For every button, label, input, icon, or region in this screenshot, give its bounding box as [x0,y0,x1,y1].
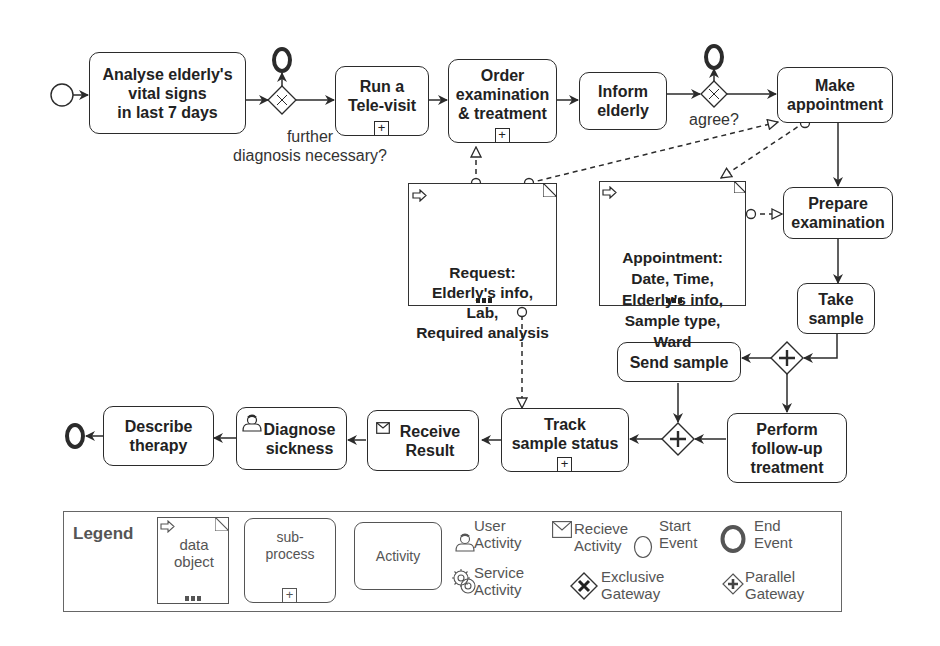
subprocess-order-examination[interactable]: Order examination & treatment+ [448,59,557,143]
activity-make-appointment[interactable]: Make appointment [777,67,893,123]
collection-marker-icon [185,596,201,601]
gateway-label-further-diagnosis: further diagnosis necessary? [215,127,405,165]
activity-label: Perform follow-up treatment [751,420,824,477]
activity-diagnose-sickness[interactable]: Diagnose sickness [236,407,347,470]
legend-start-event-label: Start Event [659,517,697,551]
activity-label: Diagnose sickness [263,420,335,458]
legend-end-event-label: End Event [754,517,792,551]
activity-label: Make appointment [787,76,883,114]
legend-data-object-label: data object [168,536,220,570]
legend-receive-activity-label: Recieve Activity [574,520,628,554]
parallel-gateway-icon [722,573,744,595]
start-event-icon [51,84,73,106]
activity-analyse-vital-signs[interactable]: Analyse elderly's vital signs in last 7 … [89,52,246,134]
activity-label: Describe therapy [125,417,193,455]
collection-marker-icon [666,298,682,303]
input-arrow-icon [602,186,617,199]
activity-label: Analyse elderly's vital signs in last 7 … [102,65,232,122]
user-activity-icon [454,532,476,552]
legend-exclusive-gateway-label: Exclusive Gateway [601,568,664,602]
folded-corner-icon [215,517,229,531]
activity-prepare-examination[interactable]: Prepare examination [783,187,893,239]
activity-label: Track sample status [512,415,619,453]
activity-describe-therapy[interactable]: Describe therapy [103,406,214,466]
collection-marker-icon [476,298,492,303]
receive-activity-icon [552,521,572,538]
envelope-icon [376,422,390,434]
subprocess-marker-icon: + [495,128,510,143]
legend-service-activity-label: Service Activity [474,564,524,598]
end-event-icon [719,524,747,554]
activity-label: Send sample [630,353,729,372]
activity-take-sample[interactable]: Take sample [797,283,875,334]
legend-parallel-gateway-label: Parallel Gateway [745,568,804,602]
legend: Legend data object sub- process + Activi… [63,511,842,612]
input-arrow-icon [160,520,175,533]
activity-label: Order examination & treatment [456,66,549,123]
exclusive-gateway-icon [570,572,598,600]
activity-label: Prepare examination [791,194,884,232]
data-object-appointment[interactable]: Appointment: Date, Time, Elderly's info,… [599,181,746,306]
legend-title: Legend [73,524,133,544]
subprocess-track-sample-status[interactable]: Track sample status+ [501,408,629,472]
subprocess-marker-icon: + [557,457,572,472]
activity-label: Run a Tele-visit [348,77,416,115]
legend-subprocess-label: sub- process [265,529,314,563]
activity-perform-followup[interactable]: Perform follow-up treatment [727,413,847,483]
subprocess-run-televisit[interactable]: Run a Tele-visit+ [335,66,429,136]
data-object-request[interactable]: Request: Elderly's info, Lab, Required a… [408,183,557,306]
activity-label: Inform elderly [597,82,649,120]
legend-activity: Activity [354,522,442,590]
subprocess-marker-icon: + [282,588,297,603]
legend-data-object: data object [157,517,229,604]
legend-activity-label: Activity [376,548,420,565]
activity-label: Receive Result [400,422,461,460]
user-icon [242,414,262,432]
legend-subprocess: sub- process + [244,518,336,603]
start-event-icon [633,535,653,559]
activity-label: Take sample [808,290,863,328]
activity-inform-elderly[interactable]: Inform elderly [579,72,667,130]
activity-receive-result[interactable]: Receive Result [367,410,479,471]
folded-corner-icon [734,181,746,193]
input-arrow-icon [412,189,427,202]
legend-user-activity-label: User Activity [474,517,522,551]
gateway-label-agree: agree? [684,110,744,129]
folded-corner-icon [543,183,557,197]
